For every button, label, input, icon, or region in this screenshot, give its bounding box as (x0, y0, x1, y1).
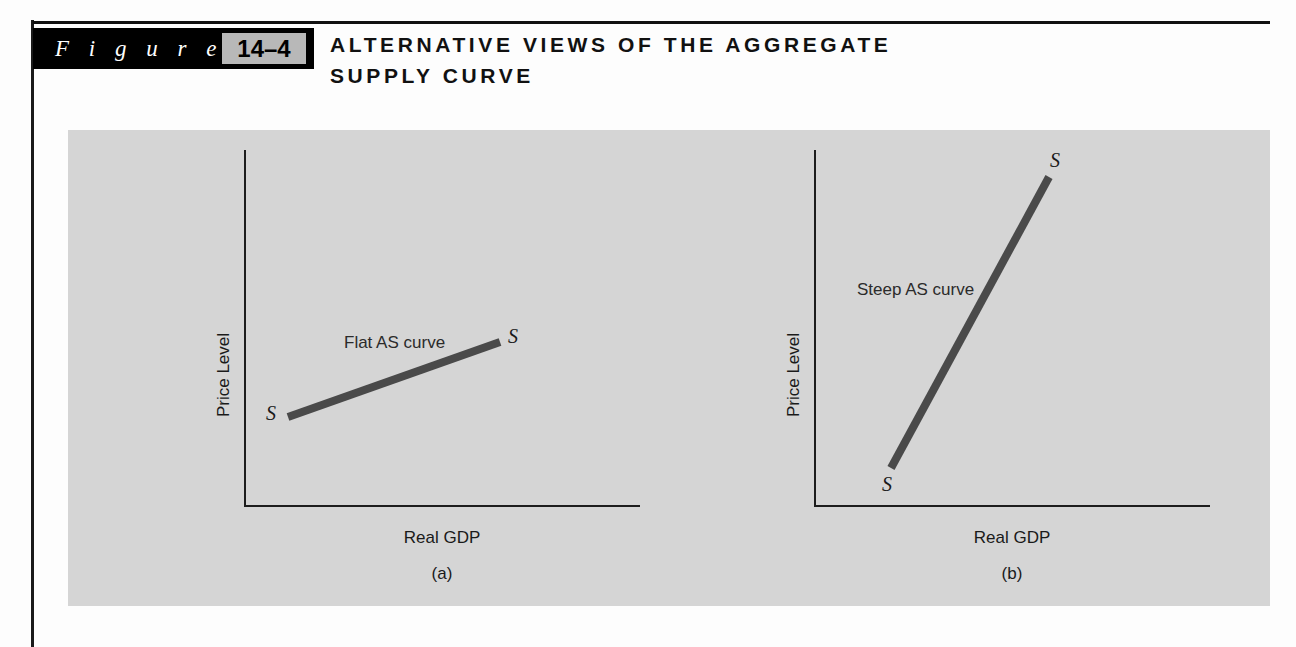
figure-title-line-1: ALTERNATIVE VIEWS OF THE AGGREGATE (330, 29, 1210, 60)
figure-title-line-2: SUPPLY CURVE (330, 60, 1210, 91)
figure-gray-panel: Price Level Flat AS curve S S Real GDP (… (68, 130, 1270, 606)
chart-a-as-curve (288, 342, 500, 417)
figure-title: ALTERNATIVE VIEWS OF THE AGGREGATE SUPPL… (330, 29, 1210, 91)
chart-b-caption: (b) (912, 564, 1112, 584)
chart-b-x-axis-label: Real GDP (912, 528, 1112, 548)
chart-a-s-label-start: S (266, 402, 276, 425)
chart-a-curve-label: Flat AS curve (344, 333, 445, 353)
chart-b-s-label-start: S (882, 473, 892, 496)
figure-number-box: 14–4 (220, 31, 308, 66)
figure-header-band: F i g u r e 14–4 (33, 28, 314, 69)
page-left-rule (31, 20, 34, 647)
chart-b-as-curve (891, 177, 1049, 468)
chart-a-x-axis-label: Real GDP (342, 528, 542, 548)
chart-panel-a: Price Level Flat AS curve S S Real GDP (… (122, 130, 682, 606)
chart-a-s-label-end: S (508, 325, 518, 348)
figure-number: 14–4 (237, 35, 290, 63)
chart-a-caption: (a) (342, 564, 542, 584)
page-top-rule (33, 21, 1270, 24)
figure-page: F i g u r e 14–4 ALTERNATIVE VIEWS OF TH… (0, 0, 1296, 647)
chart-b-s-label-end: S (1050, 149, 1060, 172)
chart-panel-b: Price Level Steep AS curve S S Real GDP … (692, 130, 1252, 606)
figure-word-label: F i g u r e (55, 36, 223, 62)
chart-b-curve-label: Steep AS curve (857, 280, 974, 300)
